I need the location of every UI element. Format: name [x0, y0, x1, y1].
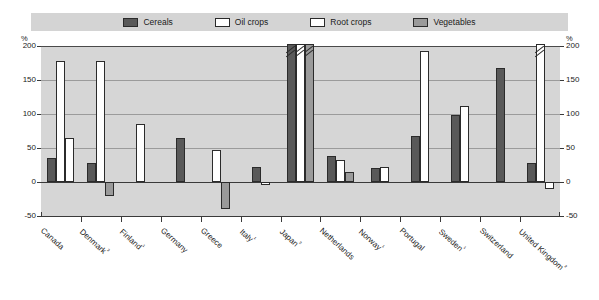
y-tickmark-right-150: [560, 80, 564, 81]
x-axis-label-canada: Canada: [39, 226, 66, 251]
y-tick-right-100: 100: [566, 109, 592, 118]
y-tickmark-right-200: [560, 46, 564, 47]
legend-swatch-vegetables-icon: [413, 18, 428, 27]
legend-swatch-root-crops-icon: [310, 18, 325, 27]
x-axis-label-germany: Germany: [159, 226, 189, 255]
x-axis-label-unitedkingdom: United Kingdom²: [517, 226, 568, 273]
y-tickmark-right-50: [560, 148, 564, 149]
legend-swatch-oil-crops-icon: [215, 18, 230, 27]
chart-root: Cereals Oil crops Root crops Vegetables …: [0, 0, 599, 300]
legend-item-oil-crops: Oil crops: [215, 17, 269, 27]
legend-label-cereals: Cereals: [143, 17, 172, 27]
y-tick-left-0: 0: [10, 177, 36, 186]
x-axis-label-netherlands: Netherlands: [318, 226, 356, 262]
legend-swatch-cereals-icon: [123, 18, 138, 27]
x-axis-label-italy: Italy¹: [237, 226, 257, 245]
legend-label-oil-crops: Oil crops: [235, 17, 269, 27]
x-axis-label-finland: Finland¹: [118, 226, 146, 253]
y-tickmark-right-100: [560, 114, 564, 115]
x-axis-label-japan: Japan²: [277, 226, 302, 250]
y-tick-left-150: 150: [10, 75, 36, 84]
x-axis-labels: CanadaDenmark²Finland¹GermanyGreeceItaly…: [0, 216, 599, 300]
y-tickmark-left-0: [37, 182, 41, 183]
y-tickmark-left-100: [37, 114, 41, 115]
y-tick-right-150: 150: [566, 75, 592, 84]
x-axis-label-norway: Norway¹: [357, 226, 386, 253]
chart-legend: Cereals Oil crops Root crops Vegetables: [31, 13, 568, 31]
legend-label-root-crops: Root crops: [330, 17, 371, 27]
y-tickmark-left-200: [37, 46, 41, 47]
y-tick-left-50: 50: [10, 143, 36, 152]
x-axis-label-denmark: Denmark²: [78, 226, 111, 257]
y-tickmark-right-0: [560, 182, 564, 183]
x-axis-label-sweden: Sweden¹: [437, 226, 467, 255]
x-axis-label-switzerland: Switzerland: [478, 226, 515, 260]
legend-label-vegetables: Vegetables: [433, 17, 475, 27]
plot-area: [41, 46, 560, 217]
legend-item-root-crops: Root crops: [310, 17, 371, 27]
y-tickmark-left-150: [37, 80, 41, 81]
y-tick-right-50: 50: [566, 143, 592, 152]
y-tickmark-left-50: [37, 148, 41, 149]
legend-item-vegetables: Vegetables: [413, 17, 475, 27]
y-tick-left-200: 200: [10, 41, 36, 50]
y-tick-left-100: 100: [10, 109, 36, 118]
y-tick-right-200: 200: [566, 41, 592, 50]
x-axis-label-portugal: Portugal: [398, 226, 426, 253]
x-axis-label-greece: Greece: [199, 226, 225, 250]
y-tick-right-0: 0: [566, 177, 592, 186]
legend-item-cereals: Cereals: [123, 17, 172, 27]
